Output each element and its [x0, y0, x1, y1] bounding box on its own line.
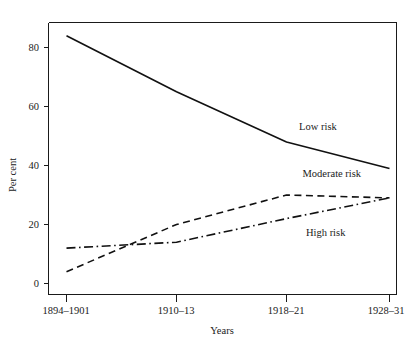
- series-label-moderate-risk: Moderate risk: [303, 168, 362, 179]
- y-tick-label-40: 40: [29, 160, 40, 171]
- x-tick-label-3: 1928–31: [368, 305, 405, 316]
- x-tick-label-2: 1918–21: [268, 305, 305, 316]
- y-tick-label-80: 80: [29, 42, 40, 53]
- x-axis-title: Years: [210, 325, 233, 336]
- series-label-high-risk: High risk: [306, 227, 346, 238]
- series-label-low-risk: Low risk: [299, 121, 337, 132]
- x-tick-label-1: 1910–13: [158, 305, 195, 316]
- line-chart: 0 20 40 60 80 Per cent 1894–1901 1910–13…: [0, 0, 407, 344]
- chart-figure: 0 20 40 60 80 Per cent 1894–1901 1910–13…: [0, 0, 407, 344]
- y-tick-label-0: 0: [34, 278, 39, 289]
- series-line-high-risk: [67, 198, 390, 248]
- y-axis-title: Per cent: [7, 158, 18, 192]
- y-tick-label-20: 20: [29, 219, 40, 230]
- x-tick-label-0: 1894–1901: [42, 305, 89, 316]
- series-line-low-risk: [67, 36, 390, 169]
- y-tick-label-60: 60: [29, 101, 40, 112]
